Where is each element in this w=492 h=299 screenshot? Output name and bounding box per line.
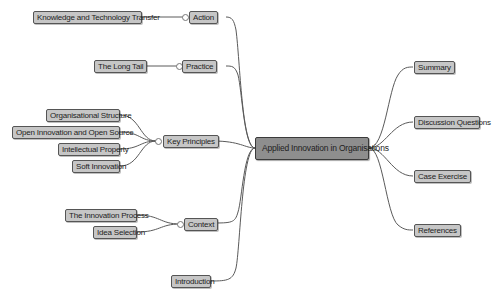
leaf-node-organisational-structure[interactable]: Organisational Structure [46,109,120,122]
branch-node-case-exercise[interactable]: Case Exercise [414,170,471,183]
branch-node-discussion-questions[interactable]: Discussion Questions [414,116,480,129]
leaf-node-innovation-process[interactable]: The Innovation Process [65,209,137,222]
leaf-node-the-long-tail[interactable]: The Long Tail [94,60,147,73]
branch-node-practice[interactable]: Practice [182,60,217,73]
leaf-node-idea-selection[interactable]: Idea Selection [93,226,137,239]
collapse-toggle-context[interactable] [177,221,184,228]
branch-node-action[interactable]: Action [189,11,218,24]
leaf-node-open-innovation-open-source[interactable]: Open Innovation and Open Source [12,126,120,139]
branch-node-introduction[interactable]: Introduction [171,275,211,288]
branch-node-summary[interactable]: Summary [414,61,455,74]
branch-node-references[interactable]: References [414,224,461,237]
collapse-toggle-key-principles[interactable] [155,138,162,145]
leaf-node-intellectual-property[interactable]: Intellectual Property [58,143,120,156]
branch-node-context[interactable]: Context [184,218,218,231]
collapse-toggle-action[interactable] [182,14,189,21]
central-topic-node[interactable]: Applied Innovation in Organisations [255,137,369,160]
leaf-node-knowledge-technology-transfer[interactable]: Knowledge and Technology Transfer [33,11,142,24]
branch-node-key-principles[interactable]: Key Principles [163,135,219,148]
leaf-node-soft-innovation[interactable]: Soft Innovation [72,160,120,173]
